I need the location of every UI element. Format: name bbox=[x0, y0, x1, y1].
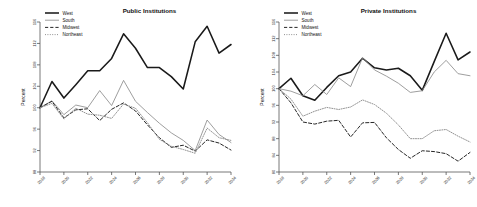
chart-legend: WestSouthMidwestNortheast bbox=[45, 11, 83, 38]
x-tick-label: 2018 bbox=[275, 175, 285, 185]
legend-label-west: West bbox=[302, 11, 313, 16]
series-line-midwest bbox=[279, 89, 470, 162]
x-tick-label: 2022 bbox=[323, 175, 333, 185]
y-tick-label: 104 bbox=[32, 82, 37, 90]
y-tick-label: 96 bbox=[32, 126, 37, 131]
series-line-northeast bbox=[279, 89, 470, 142]
y-tick-label: 116 bbox=[271, 18, 276, 25]
x-tick-label: 2030 bbox=[179, 175, 189, 185]
y-tick-label: 108 bbox=[32, 61, 37, 69]
chart-panel-private: Private Institutions80848892961001041081… bbox=[239, 0, 477, 207]
y-tick-label: 96 bbox=[271, 102, 276, 107]
x-tick-label: 2032 bbox=[442, 175, 452, 185]
chart-title: Public Institutions bbox=[123, 7, 177, 14]
y-tick-label: 112 bbox=[32, 39, 37, 46]
y-tick-label: 88 bbox=[32, 169, 37, 174]
legend-label-northeast: Northeast bbox=[63, 32, 84, 37]
legend-label-midwest: Midwest bbox=[302, 25, 320, 30]
y-tick-label: 100 bbox=[32, 104, 37, 112]
y-tick-label: 108 bbox=[271, 51, 276, 59]
y-tick-label: 92 bbox=[32, 148, 37, 153]
x-tick-label: 2030 bbox=[418, 175, 428, 185]
x-tick-label: 2028 bbox=[395, 175, 405, 185]
y-tick-label: 92 bbox=[271, 119, 276, 124]
x-tick-label: 2020 bbox=[299, 175, 309, 185]
y-tick-label: 116 bbox=[32, 18, 37, 25]
x-tick-label: 2020 bbox=[60, 175, 70, 185]
x-tick-label: 2034 bbox=[227, 175, 237, 185]
y-tick-label: 80 bbox=[271, 169, 276, 174]
series-line-south bbox=[40, 80, 231, 150]
y-axis-label: Percent bbox=[259, 88, 265, 106]
x-tick-label: 2026 bbox=[371, 175, 381, 185]
chart-svg: Public Institutions889296100104108112116… bbox=[0, 0, 238, 207]
y-axis-label: Percent bbox=[20, 88, 26, 106]
y-tick-label: 88 bbox=[271, 136, 276, 141]
x-tick-label: 2024 bbox=[108, 175, 118, 185]
series-line-south bbox=[279, 58, 470, 96]
series-line-west bbox=[279, 33, 470, 100]
x-tick-label: 2024 bbox=[347, 175, 357, 185]
chart-panel-public: Public Institutions889296100104108112116… bbox=[0, 0, 238, 207]
y-tick-label: 104 bbox=[271, 68, 276, 76]
legend-label-midwest: Midwest bbox=[63, 25, 81, 30]
y-tick-label: 112 bbox=[271, 35, 276, 42]
series-line-west bbox=[40, 26, 231, 107]
figure-root: Public Institutions889296100104108112116… bbox=[0, 0, 477, 207]
chart-legend: WestSouthMidwestNortheast bbox=[284, 11, 322, 38]
chart-svg: Private Institutions80848892961001041081… bbox=[239, 0, 477, 207]
chart-title: Private Institutions bbox=[361, 7, 417, 14]
x-tick-label: 2034 bbox=[466, 175, 476, 185]
x-tick-label: 2022 bbox=[84, 175, 94, 185]
legend-label-south: South bbox=[302, 18, 314, 23]
x-tick-label: 2032 bbox=[203, 175, 213, 185]
legend-label-south: South bbox=[63, 18, 75, 23]
legend-label-west: West bbox=[63, 11, 74, 16]
y-tick-label: 84 bbox=[271, 152, 276, 157]
x-tick-label: 2028 bbox=[156, 175, 166, 185]
y-tick-label: 100 bbox=[271, 85, 276, 93]
x-tick-label: 2018 bbox=[36, 175, 46, 185]
x-tick-label: 2026 bbox=[132, 175, 142, 185]
legend-label-northeast: Northeast bbox=[302, 32, 323, 37]
